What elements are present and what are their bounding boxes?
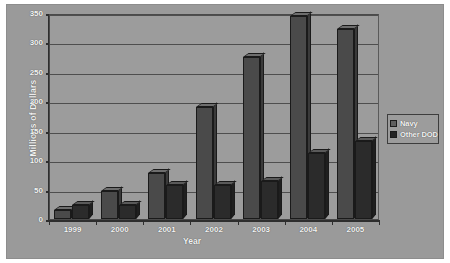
x-tick-label-2004: 2004	[286, 225, 330, 234]
x-tick-mark	[379, 220, 380, 225]
bar-side-face	[231, 181, 235, 219]
bar-navy-2001[interactable]	[148, 173, 165, 219]
gridline	[50, 44, 378, 45]
bar-navy-2003[interactable]	[243, 57, 260, 219]
chart-canvas: Millions of Dollars 05010015020025030035…	[6, 4, 444, 259]
bar-front	[290, 16, 307, 219]
bar-other-dod-2005[interactable]	[355, 141, 372, 219]
plot-inner	[50, 15, 378, 219]
bar-front	[337, 29, 354, 219]
bar-front	[214, 185, 231, 219]
x-tick-label-2002: 2002	[192, 225, 236, 234]
bar-navy-2005[interactable]	[337, 29, 354, 219]
bar-other-dod-1999[interactable]	[72, 205, 89, 219]
chart-legend: Navy Other DOD	[387, 114, 439, 144]
x-tick-label-1999: 1999	[51, 225, 95, 234]
bar-side-face	[183, 181, 187, 219]
bar-other-dod-2001[interactable]	[166, 185, 183, 219]
bar-side-face	[325, 148, 329, 219]
bar-other-dod-2002[interactable]	[214, 185, 231, 219]
bar-navy-1999[interactable]	[54, 210, 71, 219]
x-tick-label-2001: 2001	[145, 225, 189, 234]
bar-front	[243, 57, 260, 219]
bar-front	[119, 205, 136, 219]
y-tick-label: 100	[13, 157, 43, 165]
bar-front	[355, 141, 372, 219]
x-axis-title: Year	[7, 236, 377, 246]
y-tick-label: 150	[13, 128, 43, 136]
bar-chart-figure: Millions of Dollars 05010015020025030035…	[0, 0, 450, 263]
y-tick-label: 350	[13, 10, 43, 18]
bar-front	[101, 191, 118, 219]
bar-front	[54, 210, 71, 219]
gridline	[50, 74, 378, 75]
bar-navy-2002[interactable]	[196, 107, 213, 219]
navy-swatch-icon	[390, 120, 397, 127]
other-dod-swatch-icon	[390, 131, 397, 138]
y-tick-label: 50	[13, 187, 43, 195]
legend-label-other-dod: Other DOD	[400, 130, 438, 139]
bar-other-dod-2004[interactable]	[308, 153, 325, 219]
gridline	[50, 15, 378, 16]
bar-navy-2000[interactable]	[101, 191, 118, 219]
bar-front	[166, 185, 183, 219]
bar-front	[261, 181, 278, 219]
y-tick-label: 250	[13, 69, 43, 77]
x-tick-label-2005: 2005	[333, 225, 377, 234]
bar-front	[196, 107, 213, 219]
bar-front	[148, 173, 165, 219]
bar-navy-2004[interactable]	[290, 16, 307, 219]
y-tick-label: 0	[13, 216, 43, 224]
legend-item-other-dod[interactable]: Other DOD	[390, 129, 435, 140]
bar-side-face	[372, 136, 376, 219]
x-tick-label-2003: 2003	[239, 225, 283, 234]
bar-side-face	[278, 176, 282, 219]
bar-front	[72, 205, 89, 219]
x-tick-label-2000: 2000	[98, 225, 142, 234]
y-tick-label: 200	[13, 98, 43, 106]
legend-item-navy[interactable]: Navy	[390, 118, 435, 129]
bar-other-dod-2000[interactable]	[119, 205, 136, 219]
bar-front	[308, 153, 325, 219]
y-tick-label: 300	[13, 39, 43, 47]
bar-other-dod-2003[interactable]	[261, 181, 278, 219]
legend-label-navy: Navy	[400, 119, 418, 128]
y-axis-ticks: 050100150200250300350	[7, 14, 43, 220]
plot-area	[49, 14, 379, 220]
